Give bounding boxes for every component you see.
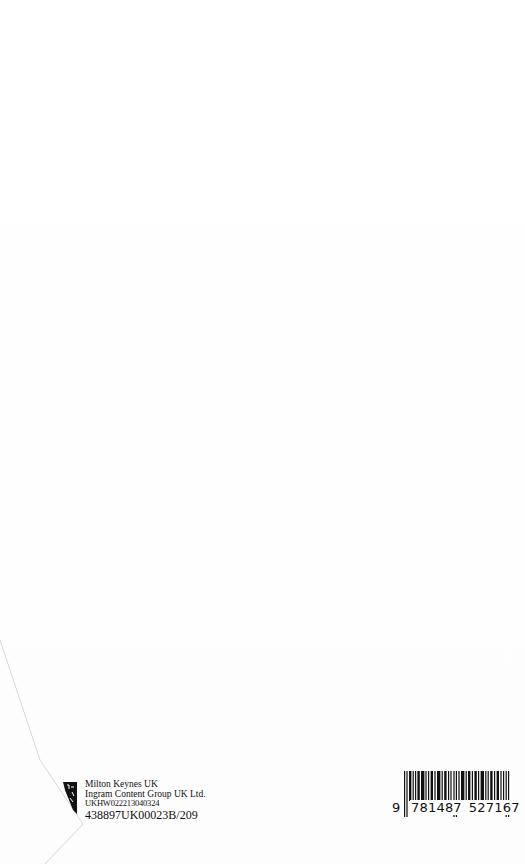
- barcode-group-1: 781487: [411, 800, 462, 815]
- printer-job-code: UKHW022213040324: [85, 799, 206, 808]
- barcode-lead-digit: 9: [392, 800, 400, 815]
- printer-imprint: Milton Keynes UK Ingram Content Group UK…: [63, 780, 206, 821]
- printer-batch-code: 438897UK00023B/209: [85, 809, 206, 821]
- printer-logo-icon: [63, 782, 77, 814]
- barcode-digits: 781487 527167: [410, 800, 510, 815]
- barcode-group-2: 527167: [469, 800, 520, 815]
- page-fold-edge: [0, 640, 90, 864]
- isbn-barcode: 9 7: [392, 771, 512, 817]
- book-back-page: Milton Keynes UK Ingram Content Group UK…: [0, 0, 525, 864]
